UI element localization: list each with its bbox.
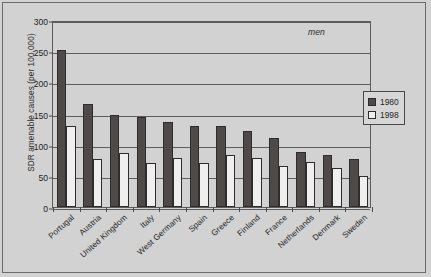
bar-group — [216, 20, 235, 207]
bar — [110, 115, 120, 207]
bar — [296, 152, 306, 207]
bar — [216, 126, 226, 207]
x-tick-mark — [239, 207, 240, 212]
bar — [199, 163, 209, 207]
legend-swatch-icon — [368, 111, 376, 119]
bar-group — [243, 20, 262, 207]
bar — [306, 162, 316, 208]
bar — [252, 158, 262, 207]
plot-area: 050100150200250300 — [52, 21, 371, 208]
bar — [332, 168, 342, 207]
bar — [349, 159, 359, 207]
x-axis-label-italy: Italy — [138, 213, 156, 230]
bar-group — [296, 20, 315, 207]
y-tick-label-300: 300 — [34, 17, 48, 27]
bar — [137, 117, 147, 207]
bar-group — [83, 20, 102, 207]
x-axis-label-denmark: Denmark — [311, 213, 342, 242]
x-axis-label-spain: Spain — [187, 213, 209, 234]
bar — [279, 166, 289, 207]
x-axis-label-finland: Finland — [236, 213, 263, 238]
legend-entry: 1980 — [368, 95, 399, 108]
bar — [93, 159, 103, 207]
legend-label: 1980 — [380, 97, 399, 107]
x-tick-mark — [53, 207, 54, 212]
bar — [163, 122, 173, 207]
y-tick-label-200: 200 — [34, 79, 48, 89]
x-tick-mark — [159, 207, 160, 212]
bar — [83, 104, 93, 207]
x-tick-mark — [80, 207, 81, 212]
x-tick-mark — [186, 207, 187, 212]
bar — [146, 163, 156, 207]
x-axis-label-sweden: Sweden — [340, 213, 368, 240]
bar — [119, 153, 129, 207]
bar-group — [323, 20, 342, 207]
bar — [66, 126, 76, 207]
y-tick-label-100: 100 — [34, 142, 48, 152]
bar — [173, 158, 183, 207]
bar — [243, 131, 253, 207]
legend-entry: 1998 — [368, 108, 399, 121]
bar-group — [57, 20, 76, 207]
x-tick-mark — [319, 207, 320, 212]
chart-annotation-men: men — [308, 27, 325, 37]
legend-swatch-icon — [368, 98, 376, 106]
y-axis-title: SDR amenable causes (per 100,000) — [27, 13, 36, 193]
chart-legend: 19801998 — [363, 91, 405, 125]
bar — [269, 138, 279, 207]
x-tick-mark — [372, 207, 373, 212]
y-tick-label-0: 0 — [43, 204, 48, 214]
x-axis-labels: PortugalAustriaUnited KingdomItalyWest G… — [52, 213, 371, 277]
x-tick-mark — [292, 207, 293, 212]
y-tick-label-50: 50 — [38, 173, 48, 183]
x-tick-mark — [213, 207, 214, 212]
bar — [190, 126, 200, 207]
x-tick-mark — [133, 207, 134, 212]
bar — [323, 155, 333, 207]
legend-label: 1998 — [380, 110, 399, 120]
gridline-0 — [53, 209, 370, 210]
bar-group — [269, 20, 288, 207]
chart-screenshot: SDR amenable causes (per 100,000) 050100… — [0, 0, 431, 277]
bars-layer — [53, 22, 370, 207]
bar-group — [110, 20, 129, 207]
bar — [226, 155, 236, 207]
bar-group — [190, 20, 209, 207]
bar-group — [137, 20, 156, 207]
bar — [359, 176, 369, 207]
y-tick-label-250: 250 — [34, 48, 48, 58]
bar-group — [163, 20, 182, 207]
y-tick-label-150: 150 — [34, 111, 48, 121]
x-axis-label-united-kingdom: United Kingdom — [79, 213, 129, 260]
x-tick-mark — [266, 207, 267, 212]
bar — [57, 50, 67, 207]
figure-frame: SDR amenable causes (per 100,000) 050100… — [2, 2, 426, 273]
x-axis-label-greece: Greece — [209, 213, 235, 238]
x-tick-mark — [106, 207, 107, 212]
x-tick-mark — [345, 207, 346, 212]
x-axis-label-portugal: Portugal — [47, 213, 76, 241]
